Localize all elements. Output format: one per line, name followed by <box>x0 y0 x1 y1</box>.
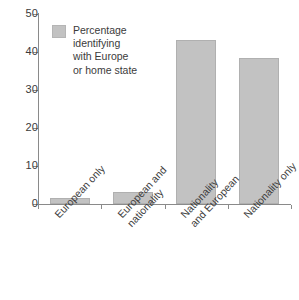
y-axis-tick-value: 0 <box>12 198 38 209</box>
y-axis-tick-label: 40 <box>0 46 38 57</box>
legend-label-line: Percentage <box>73 24 137 37</box>
y-axis-tick-value: 30 <box>12 84 38 95</box>
y-axis-tick-label: 30 <box>0 84 38 95</box>
legend-label-line: with Europe <box>73 50 137 63</box>
x-axis-tick-mark <box>165 205 166 209</box>
y-axis-tick-label: 50 <box>0 8 38 19</box>
x-axis-category-label: European only <box>52 162 107 220</box>
y-axis-line <box>38 13 39 205</box>
legend-label-line: identifying <box>73 37 137 50</box>
x-axis-tick-mark <box>38 205 39 209</box>
bar-chart: 01020304050 Percentage identifying with … <box>0 0 299 300</box>
x-axis-tick-mark <box>291 205 292 209</box>
x-axis-tick-mark <box>101 205 102 209</box>
y-axis-tick-value: 50 <box>12 8 38 19</box>
x-axis-tick-mark <box>228 205 229 209</box>
bar-color-swatch <box>52 25 66 38</box>
y-axis-tick-label: 10 <box>0 160 38 171</box>
legend-label: Percentage identifying with Europe or ho… <box>73 24 137 77</box>
y-axis-tick-label: 20 <box>0 122 38 133</box>
chart-legend: Percentage identifying with Europe or ho… <box>52 24 137 77</box>
y-axis-tick-value: 10 <box>12 160 38 171</box>
category-label-line: European only <box>52 162 107 220</box>
y-axis-tick-value: 40 <box>12 46 38 57</box>
y-axis-tick-label: 0 <box>0 198 38 209</box>
legend-label-line: or home state <box>73 64 137 77</box>
y-axis-tick-value: 20 <box>12 122 38 133</box>
